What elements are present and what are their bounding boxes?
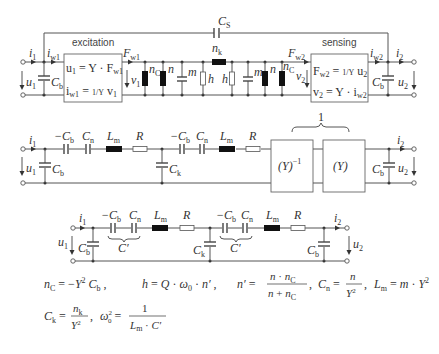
n-left-label: n xyxy=(168,62,174,76)
c2-ck-label: Ck xyxy=(169,162,181,178)
circuit-diagram: CS Cb i1 iw1 u1 excitation u1 = Y · Fw1 … xyxy=(0,0,439,354)
svg-text:1: 1 xyxy=(142,302,148,314)
svg-text:n: n xyxy=(350,270,356,282)
c2-output-terminal-top xyxy=(412,147,416,151)
h-left-damper xyxy=(201,72,206,85)
c2-lm-1-label: Lm xyxy=(106,129,121,145)
circuit-2-electrical-equivalent: i1 u1 Cb −Cb Cn Lm R Ck −Cb Cn Lm R xyxy=(20,110,417,192)
c2-lm-1-inductor xyxy=(106,146,122,152)
sensing-label: sensing xyxy=(322,37,356,48)
c2-lm-2-inductor xyxy=(219,146,235,152)
svg-text:Y2: Y2 xyxy=(346,287,356,299)
c3-cn-1-label: Cn xyxy=(129,208,141,224)
c3-i1-label: i1 xyxy=(79,211,86,227)
svg-text:,: , xyxy=(364,277,367,291)
svg-text:,: , xyxy=(309,277,312,291)
m-right-label: m xyxy=(254,65,263,79)
eq-cn: Cn = xyxy=(318,277,340,293)
excitation-label: excitation xyxy=(72,37,114,48)
input-terminal-bottom xyxy=(21,93,25,97)
v2-label: v2 xyxy=(296,69,305,85)
fw1-label: Fw1 xyxy=(122,46,140,62)
c2-input-terminal-top xyxy=(21,147,25,151)
c2-y-label: (Y) xyxy=(333,159,348,173)
nk-label: nk xyxy=(212,41,222,57)
c3-cprime-1-label: C′ xyxy=(118,241,129,255)
output-terminal-top xyxy=(412,60,416,64)
eq-nprime-numerator: n · nC xyxy=(270,270,296,285)
c2-cb-left-label: Cb xyxy=(52,162,64,178)
h-left-label: h xyxy=(208,72,214,86)
nc-left-compliance xyxy=(142,71,148,86)
c3-output-terminal-bottom xyxy=(345,259,349,263)
c3-cprime-2-label: C′ xyxy=(230,241,241,255)
c3-r-1-resistor xyxy=(180,226,194,231)
iw1-label: iw1 xyxy=(47,46,60,62)
c3-cn-2-label: Cn xyxy=(241,208,253,224)
c2-input-terminal-bottom xyxy=(21,181,25,185)
i1-label: i1 xyxy=(29,46,36,62)
c2-cn-2-label: Cn xyxy=(196,129,208,145)
u1-label: u1 xyxy=(26,75,36,91)
eq-nc: nC = −Y2 Cb , xyxy=(44,276,107,293)
c2-brace xyxy=(292,123,349,132)
c3-input-terminal-top xyxy=(71,226,75,230)
n-right-compliance xyxy=(262,71,268,86)
eq-nprime-denominator: n + nC xyxy=(268,287,296,302)
c3-i2-label: i2 xyxy=(334,211,341,227)
m-left-label: m xyxy=(188,65,197,79)
c3-lm-1-inductor xyxy=(152,225,168,231)
cb-right-label: Cb xyxy=(372,75,384,91)
h-right-label: h xyxy=(222,72,228,86)
c3-lm-2-label: Lm xyxy=(265,208,280,224)
svg-text:Lm · C′: Lm · C′ xyxy=(129,319,162,333)
eq-omega0: ω20 = xyxy=(100,309,121,325)
n-right-label: n xyxy=(270,62,276,76)
nc-right-compliance xyxy=(279,71,285,86)
v1-label: v1 xyxy=(131,73,140,89)
c2-i2-label: i2 xyxy=(397,133,404,149)
c2-lm-2-label: Lm xyxy=(219,129,234,145)
c3-cb-left-label: Cb xyxy=(78,241,90,257)
c2-r-1-resistor xyxy=(133,147,147,152)
c2-i1-label: i1 xyxy=(29,133,36,149)
c3-neg-cb-1-label: −Cb xyxy=(101,208,121,224)
n-left-compliance xyxy=(160,71,166,86)
iw2-label: iw2 xyxy=(370,46,383,62)
c2-u2-label: u2 xyxy=(398,161,408,177)
c2-neg-cb-1-label: −Cb xyxy=(54,129,74,145)
c3-neg-cb-2-label: −Cb xyxy=(216,208,236,224)
eq-h: h = Q · ω0 · n′ , xyxy=(142,277,217,293)
eq-nprime: n′ = xyxy=(237,277,256,291)
c2-cb-right-label: Cb xyxy=(372,162,384,178)
nk-coupling-compliance xyxy=(212,59,226,65)
cb-left-label: Cb xyxy=(51,75,63,91)
c2-neg-cb-2-label: −Cb xyxy=(170,129,190,145)
c2-r-1-label: R xyxy=(135,129,144,143)
circuit-3-simplified-equivalent: i1 u1 Cb −Cb Cn C′ Lm R Ck −Cb Cn C′ xyxy=(58,208,363,263)
c3-u1-label: u1 xyxy=(58,235,68,251)
c2-output-terminal-bottom xyxy=(412,181,416,185)
c2-r-2-label: R xyxy=(248,129,257,143)
c3-input-terminal-bottom xyxy=(71,259,75,263)
nc-right-label: nC xyxy=(283,59,294,75)
c3-u2-label: u2 xyxy=(353,237,363,253)
nc-left-label: nC xyxy=(149,62,160,78)
c3-ck-label: Ck xyxy=(193,243,205,259)
c3-r-2-resistor xyxy=(291,226,305,231)
c2-brace-label: 1 xyxy=(318,110,324,124)
eq-ck: Ck = xyxy=(44,309,66,325)
c3-lm-1-label: Lm xyxy=(153,208,168,224)
svg-text:Y2: Y2 xyxy=(71,319,81,331)
output-terminal-bottom xyxy=(412,93,416,97)
c2-r-2-resistor xyxy=(246,147,260,152)
u2-label: u2 xyxy=(398,75,408,91)
svg-text:,: , xyxy=(90,309,93,323)
parameter-equations: nC = −Y2 Cb , h = Q · ω0 · n′ , n′ = n ·… xyxy=(44,270,429,333)
c3-cb-right-label: Cb xyxy=(307,243,319,259)
fw2-label: Fw2 xyxy=(287,46,305,62)
eq-lm: Lm = m · Y2 xyxy=(373,276,429,293)
c3-r-2-label: R xyxy=(293,208,302,222)
cs-label: CS xyxy=(218,14,230,30)
h-right-damper xyxy=(230,72,235,85)
